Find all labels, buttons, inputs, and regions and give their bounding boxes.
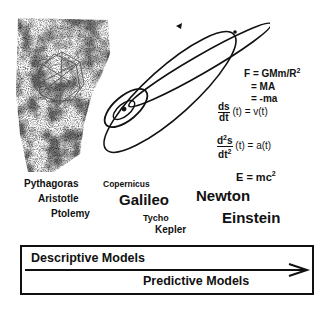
label-tycho: Tycho	[143, 213, 169, 223]
gravity-equation: F = GMm/R2	[244, 67, 300, 79]
energy-equation: E = mc2	[236, 170, 276, 183]
velocity-equation: dsdt (t) = v(t)	[218, 102, 268, 123]
label-newton: Newton	[196, 187, 250, 204]
ma-equation: = MA	[251, 81, 275, 92]
label-ptolemy: Ptolemy	[51, 208, 90, 219]
label-copernicus: Copernicus	[103, 179, 150, 189]
acceleration-equation: d2sdt2 (t) = a(t)	[217, 133, 271, 161]
model-spectrum-box: Descriptive Models Predictive Models	[20, 245, 314, 295]
label-pythagoras: Pythagoras	[24, 178, 78, 189]
label-einstein: Einstein	[222, 209, 280, 226]
predictive-models-label: Predictive Models	[143, 274, 249, 288]
label-galileo: Galileo	[119, 191, 169, 208]
label-kepler: Kepler	[155, 224, 186, 235]
label-aristotle: Aristotle	[38, 193, 79, 204]
